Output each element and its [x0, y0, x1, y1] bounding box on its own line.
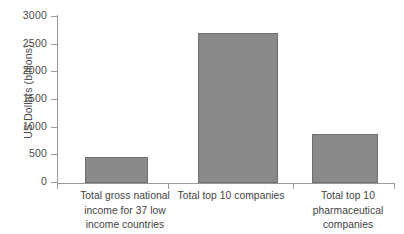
- category-label-line: income countries: [60, 218, 190, 233]
- y-axis-line: [57, 15, 58, 184]
- y-tick-mark: [51, 99, 57, 100]
- y-tick-mark: [51, 71, 57, 72]
- category-label-line: income for 37 low: [60, 204, 190, 219]
- bar-chart: US Dollars (billions) 300025002000150010…: [0, 0, 404, 234]
- category-label: Total top 10pharmaceuticalcompanies: [296, 189, 400, 233]
- category-label-line: pharmaceutical: [296, 204, 400, 219]
- y-tick-label: 500: [0, 147, 47, 159]
- bar: [312, 134, 378, 183]
- y-tick-label: 2000: [0, 64, 47, 76]
- category-label-line: companies: [296, 218, 400, 233]
- y-tick-label: 0: [0, 175, 47, 187]
- y-tick-label: 1500: [0, 92, 47, 104]
- category-label-line: Total top 10 companies: [165, 189, 297, 204]
- y-tick-label: 2500: [0, 37, 47, 49]
- category-label: Total top 10 companies: [165, 189, 297, 204]
- y-tick-label: 3000: [0, 9, 47, 21]
- y-tick-mark: [51, 182, 57, 183]
- y-tick-mark: [51, 16, 57, 17]
- bar: [198, 33, 278, 183]
- x-tick-mark: [57, 184, 58, 189]
- bar: [85, 157, 148, 183]
- category-label-line: Total top 10: [296, 189, 400, 204]
- y-tick-mark: [51, 154, 57, 155]
- x-axis-line: [57, 183, 395, 184]
- y-tick-mark: [51, 127, 57, 128]
- y-tick-label: 1000: [0, 120, 47, 132]
- y-tick-mark: [51, 44, 57, 45]
